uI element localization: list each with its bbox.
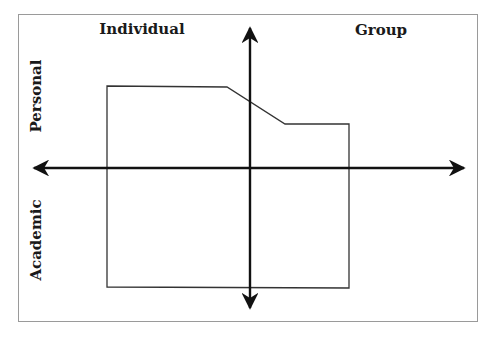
region-shape (107, 86, 349, 288)
label-academic: Academic (27, 199, 45, 280)
quadrant-diagram (0, 0, 498, 337)
label-personal: Personal (27, 59, 45, 132)
label-group: Group (355, 21, 407, 39)
label-individual: Individual (99, 20, 184, 38)
